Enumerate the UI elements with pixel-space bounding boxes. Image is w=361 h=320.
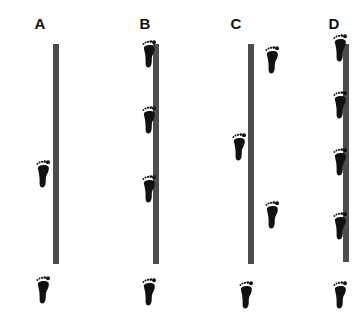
footprint-icon <box>263 46 279 74</box>
footprint-icon <box>331 148 347 176</box>
panel-label-b: B <box>140 16 151 31</box>
footprint-icon <box>263 201 279 229</box>
footprint-icon <box>331 212 347 240</box>
footprint-icon <box>140 40 156 68</box>
footprint-icon <box>140 278 156 306</box>
panel-label-a: A <box>35 16 46 31</box>
footprint-icon <box>331 281 347 309</box>
footprint-icon <box>34 160 50 188</box>
footprint-icon <box>230 133 246 161</box>
footprint-wall-diagram: ABCD <box>0 0 361 320</box>
panel-label-d: D <box>329 16 340 31</box>
footprint-icon <box>331 91 347 119</box>
footprint-icon <box>140 175 156 203</box>
panel-label-c: C <box>231 16 242 31</box>
wall-bar <box>248 44 254 264</box>
footprint-icon <box>237 281 253 309</box>
footprint-icon <box>140 106 156 134</box>
wall-bar <box>53 44 59 264</box>
footprint-icon <box>34 276 50 304</box>
footprint-icon <box>331 34 347 62</box>
wall-bar <box>153 44 159 264</box>
